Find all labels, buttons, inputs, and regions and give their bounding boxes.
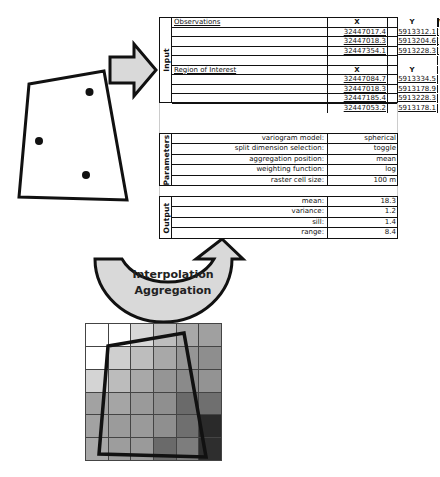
observation-row: 32447018.3 5913204.6 19.2 [172,37,397,47]
output-row: range: 8.4 [172,228,397,238]
raster-region-overlay [85,323,222,461]
output-value-range: 8.4 [327,228,397,238]
col-header-x: X [327,66,387,75]
obs-val[interactable]: 16.8 [437,47,439,56]
input-panel: Input Observations X Y Val 32447017.4 59… [159,17,398,103]
output-label: sill: [172,218,327,227]
obs-x[interactable]: 32447018.3 [327,37,387,46]
param-value-split-dimension[interactable]: toggle [327,144,397,153]
roi-y[interactable]: 5913178.9 [387,85,437,94]
output-label: range: [172,228,327,238]
output-row: sill: 1.4 [172,218,397,228]
roi-x[interactable]: 32447018.3 [327,85,387,94]
obs-y[interactable]: 5913228.3 [387,47,437,56]
output-label: variance: [172,207,327,216]
process-label-aggregation: Aggregation [135,284,212,297]
parameter-row: aggregation position: mean [172,155,397,165]
obs-y[interactable]: 5913204.6 [387,37,437,46]
roi-y[interactable]: 5913228.3 [387,94,437,103]
observation-point [82,171,90,179]
panel-spacer [159,186,398,196]
input-section-label: Input [160,18,172,102]
process-label-interpolation: Interpolation [132,268,213,281]
output-row: variance: 1.2 [172,207,397,217]
parameter-row: variogram model: spherical [172,134,397,144]
observation-point [86,88,94,96]
observation-row: 32447354.1 5913228.3 16.8 [172,47,397,57]
obs-val[interactable]: 19.2 [437,37,439,46]
input-arrow-icon [105,40,160,100]
empty-row [172,56,397,66]
parameter-row: split dimension selection: toggle [172,144,397,154]
observation-row: 32447017.4 5913312.1 17.4 [172,28,397,38]
param-value-variogram-model[interactable]: spherical [327,134,397,143]
output-row: mean: 18.3 [172,197,397,207]
region-polygon-with-points [0,0,160,240]
col-header-y: Y [387,66,437,75]
observations-header-row: Observations X Y Val [172,18,397,28]
obs-x[interactable]: 32447354.1 [327,47,387,56]
roi-y[interactable]: 5913334.5 [387,75,437,84]
obs-y[interactable]: 5913312.1 [387,28,437,37]
roi-row: 32447084.7 5913334.5 [172,75,397,85]
roi-header-row: Region of Interest X Y [172,66,397,76]
param-label: variogram model: [172,134,327,143]
roi-x[interactable]: 32447185.4 [327,94,387,103]
output-section-label: Output [160,197,172,238]
roi-title: Region of Interest [172,66,327,75]
output-value-sill: 1.4 [327,218,397,227]
param-label: aggregation position: [172,155,327,164]
parameters-panel: Parameters variogram model: spherical sp… [159,133,398,186]
param-value-aggregation-position[interactable]: mean [327,155,397,164]
output-value-mean: 18.3 [327,197,397,206]
output-label: mean: [172,197,327,206]
param-value-raster-cell-size[interactable]: 100 m [327,176,397,186]
col-header-x: X [327,18,387,27]
col-header-y: Y [387,18,437,27]
obs-val[interactable]: 17.4 [437,28,439,37]
parameter-row: weighting function: log [172,165,397,175]
output-value-variance: 1.2 [327,207,397,216]
process-uturn-arrow: Interpolation Aggregation [90,238,250,328]
param-label: raster cell size: [172,176,327,186]
parameter-row: raster cell size: 100 m [172,176,397,186]
output-panel: Output mean: 18.3 variance: 1.2 sill: 1.… [159,196,398,239]
panel-spacer [159,103,398,133]
param-label: split dimension selection: [172,144,327,153]
obs-x[interactable]: 32447017.4 [327,28,387,37]
roi-x[interactable]: 32447084.7 [327,75,387,84]
param-value-weighting-function[interactable]: log [327,165,397,174]
roi-row: 32447018.3 5913178.9 [172,85,397,95]
observation-point [35,137,43,145]
observations-title: Observations [172,18,327,27]
parameters-section-label: Parameters [160,134,172,185]
param-label: weighting function: [172,165,327,174]
